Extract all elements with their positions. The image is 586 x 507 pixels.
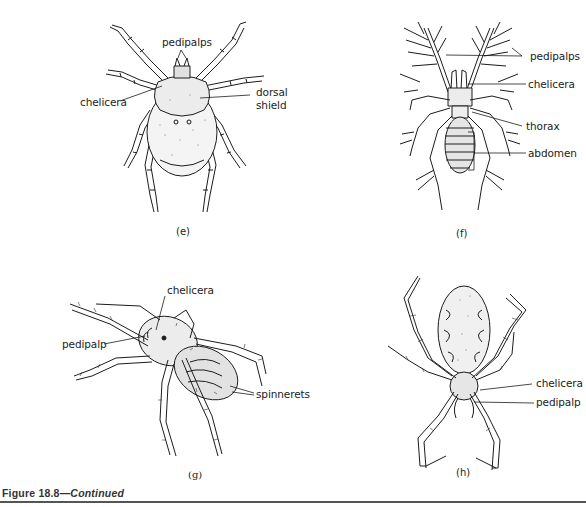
figure-number: Figure 18.8 bbox=[2, 487, 60, 499]
caption-separator: — bbox=[60, 487, 71, 499]
tick-illustration bbox=[0, 0, 293, 250]
panel-f-arachnid: pedipalps chelicera thorax abdomen (f) bbox=[300, 0, 586, 250]
panel-label-h: (h) bbox=[456, 467, 470, 478]
panel-label-e: (e) bbox=[176, 226, 190, 237]
spider-h-illustration bbox=[300, 260, 586, 482]
label-thorax: thorax bbox=[526, 120, 560, 132]
label-chelicera: chelicera bbox=[80, 96, 127, 108]
panel-g-spider: chelicera pedipalp spinnerets (g) bbox=[0, 260, 300, 482]
label-abdomen: abdomen bbox=[528, 147, 577, 159]
panel-label-g: (g) bbox=[188, 469, 202, 480]
label-chelicera: chelicera bbox=[536, 377, 583, 389]
panel-label-f: (f) bbox=[456, 228, 467, 239]
label-chelicera: chelicera bbox=[167, 284, 214, 296]
label-dorsal: dorsal bbox=[256, 86, 288, 98]
label-pedipalp: pedipalp bbox=[536, 396, 581, 408]
caption-rule-divider bbox=[0, 501, 586, 503]
spider-g-illustration bbox=[0, 260, 300, 482]
figure-caption: Figure 18.8—Continued bbox=[2, 487, 124, 499]
label-chelicera: chelicera bbox=[528, 78, 575, 90]
panel-e-tick: pedipalps chelicera dorsal shield (e) bbox=[0, 0, 293, 250]
label-shield: shield bbox=[256, 99, 287, 111]
caption-continued: Continued bbox=[70, 487, 124, 499]
label-pedipalps: pedipalps bbox=[162, 36, 212, 48]
label-pedipalp: pedipalp bbox=[62, 338, 107, 350]
panel-h-spider: chelicera pedipalp (h) bbox=[300, 260, 586, 482]
label-pedipalps: pedipalps bbox=[530, 50, 580, 62]
